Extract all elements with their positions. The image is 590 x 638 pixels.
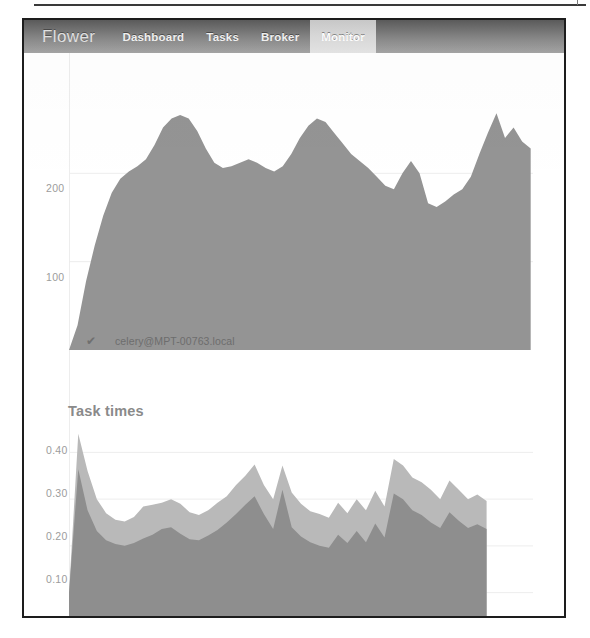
succeeded-tasks-svg — [69, 85, 533, 350]
task-times-svg — [69, 429, 533, 616]
chart2-ytick-030: 0.30 — [46, 487, 68, 499]
page-content: 200 100 ✔ celery@MPT-00763.local Task ti… — [24, 53, 564, 616]
legend-worker-label: celery@MPT-00763.local — [115, 335, 235, 347]
chart1-legend[interactable]: ✔ celery@MPT-00763.local — [86, 335, 235, 347]
nav-items: Dashboard Tasks Broker Monitor — [111, 20, 375, 53]
check-icon[interactable]: ✔ — [86, 335, 96, 347]
chart1-ytick-200: 200 — [46, 182, 64, 194]
task-times-chart-block: Task times 0.40 0.30 0.20 0.10 — [24, 403, 564, 616]
brand-logo[interactable]: Flower — [24, 20, 111, 53]
legend-color-swatch — [101, 337, 110, 346]
nav-item-dashboard[interactable]: Dashboard — [111, 20, 195, 53]
page-header-rule — [34, 4, 586, 6]
chart2-ytick-040: 0.40 — [46, 444, 68, 456]
chart2-ytick-010: 0.10 — [46, 573, 68, 585]
navbar: Flower Dashboard Tasks Broker Monitor — [24, 20, 564, 53]
page-header-tick — [577, 0, 578, 5]
chart1-ytick-100: 100 — [46, 271, 64, 283]
chart2-ytick-020: 0.20 — [46, 530, 68, 542]
screenshot-page: Flower Dashboard Tasks Broker Monitor 20… — [0, 0, 590, 638]
nav-item-monitor[interactable]: Monitor — [310, 20, 376, 53]
task-times-title: Task times — [68, 403, 144, 419]
succeeded-tasks-chart-block: 200 100 ✔ celery@MPT-00763.local — [24, 67, 564, 357]
browser-screenshot-frame: Flower Dashboard Tasks Broker Monitor 20… — [22, 18, 566, 618]
nav-item-tasks[interactable]: Tasks — [195, 20, 250, 53]
succeeded-tasks-plot[interactable] — [69, 85, 533, 350]
nav-item-broker[interactable]: Broker — [250, 20, 310, 53]
task-times-plot[interactable] — [69, 429, 533, 616]
